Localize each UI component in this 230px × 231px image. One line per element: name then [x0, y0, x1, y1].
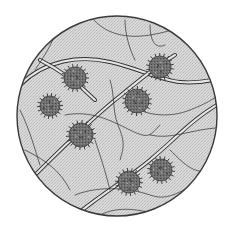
grain-pore [84, 131, 86, 133]
grain-pore [157, 173, 159, 175]
grain-pore [79, 137, 81, 139]
grain-pore [75, 135, 77, 137]
grain-pore [49, 101, 51, 103]
grain-pore [54, 100, 56, 102]
grain-pore [159, 167, 161, 169]
microscope-illustration: Circular microscope view of spiky spheri… [0, 0, 230, 231]
grain-pore [81, 136, 83, 138]
microscope-view [0, 0, 230, 231]
grain-pore [70, 75, 72, 77]
grain-pore [73, 70, 75, 72]
grain-pore [165, 167, 167, 169]
grain-pore [43, 107, 45, 109]
grain-body [69, 123, 93, 147]
grain-pore [139, 108, 141, 110]
grain-pore [132, 96, 134, 98]
grain-pore [72, 78, 74, 80]
grain-pore [133, 100, 135, 102]
grain-pore [47, 104, 49, 106]
grain-pore [135, 102, 137, 104]
grain-pore [153, 169, 155, 171]
grain-body [40, 96, 60, 116]
grain-pore [166, 63, 168, 65]
grain-pore [160, 171, 162, 173]
grain-pore [80, 131, 82, 133]
grain-pore [76, 75, 78, 77]
grain-pore [77, 81, 79, 83]
grain-body [149, 56, 171, 78]
grain-pore [160, 71, 162, 73]
grain-pore [157, 66, 159, 68]
grain-pore [126, 183, 128, 185]
grain-pore [160, 61, 162, 63]
grain-pore [161, 67, 163, 69]
grain-pore [132, 184, 134, 186]
grain-pore [125, 175, 127, 177]
grain-pore [128, 188, 130, 190]
grain-pore [141, 102, 143, 104]
grain-pore [158, 64, 160, 66]
grain-pore [137, 92, 139, 94]
grain-pore [155, 72, 157, 74]
grain-pore [77, 77, 79, 79]
grain-pore [138, 99, 140, 101]
grain-pore [50, 107, 52, 109]
grain-pore [166, 173, 168, 175]
grain-pore [161, 167, 163, 169]
grain-pore [130, 180, 132, 182]
grain-body [64, 67, 86, 89]
grain-pore [129, 179, 131, 181]
grain-pore [88, 136, 90, 138]
grain-pore [48, 109, 50, 111]
grain-pore [123, 180, 125, 182]
grain-pore [51, 105, 53, 107]
grain-pore [72, 84, 74, 86]
grain-pore [74, 129, 76, 131]
